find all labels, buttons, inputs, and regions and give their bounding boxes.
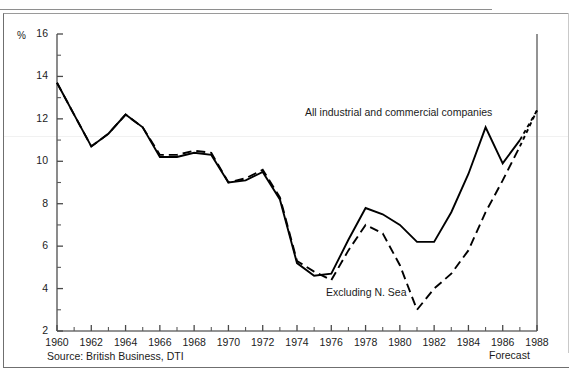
chart-figure: % 246810121416 1960196219641966196819701… (0, 0, 573, 375)
x-axis-tick-label: 1986 (486, 336, 520, 348)
series-label-all-companies: All industrial and commercial companies (305, 106, 492, 118)
y-axis-ticks (57, 34, 63, 331)
series-forecast-all-companies (520, 110, 537, 140)
x-axis-tick-label: 1970 (211, 336, 245, 348)
y-axis-tick-label: 10 (30, 154, 48, 166)
x-axis-tick-label: 1984 (451, 336, 485, 348)
x-axis-tick-label: 1966 (143, 336, 177, 348)
x-axis-tick-label: 1974 (280, 336, 314, 348)
x-axis-tick-label: 1976 (314, 336, 348, 348)
y-axis-tick-label: 16 (30, 27, 48, 39)
x-axis-ticks (57, 325, 537, 331)
x-axis-tick-label: 1980 (383, 336, 417, 348)
x-axis-tick-label: 1968 (177, 336, 211, 348)
series-label-excluding-north-sea: Excluding N. Sea (326, 286, 407, 298)
x-axis-tick-label: 1972 (246, 336, 280, 348)
y-axis-tick-label: 12 (30, 112, 48, 124)
y-axis-tick-label: 14 (30, 69, 48, 81)
chart-plot (0, 0, 573, 375)
x-axis-tick-label: 1978 (349, 336, 383, 348)
y-axis-tick-label: 2 (30, 324, 48, 336)
series-forecast-excluding-north-sea (520, 110, 537, 146)
y-axis-tick-label: 8 (30, 197, 48, 209)
y-axis-tick-label: 4 (30, 282, 48, 294)
y-axis-tick-label: 6 (30, 239, 48, 251)
x-axis-tick-label: 1962 (74, 336, 108, 348)
y-axis-unit-label: % (17, 30, 26, 41)
x-axis-tick-label: 1988 (520, 336, 554, 348)
x-axis-tick-label: 1982 (417, 336, 451, 348)
x-axis-tick-label: 1964 (109, 336, 143, 348)
forecast-label: Forecast (489, 349, 530, 361)
x-axis-tick-label: 1960 (40, 336, 74, 348)
source-note: Source: British Business, DTI (47, 350, 184, 362)
